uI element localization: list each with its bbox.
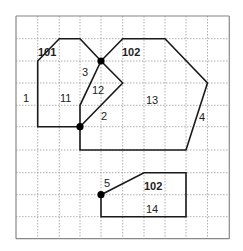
label-14: 14: [146, 203, 158, 215]
label-13: 13: [146, 94, 158, 106]
label-5: 5: [104, 177, 110, 189]
label-12: 12: [92, 84, 104, 96]
labels: 1011021021113122134514: [23, 46, 205, 215]
label-2: 2: [101, 110, 107, 122]
label-102-bottom: 102: [144, 180, 162, 192]
label-102-top: 102: [122, 46, 140, 58]
label-11: 11: [60, 92, 71, 104]
label-1: 1: [23, 92, 29, 104]
node-bottom: [97, 191, 104, 198]
diagram-canvas: 1011021021113122134514: [0, 0, 243, 251]
node-middle: [76, 123, 83, 130]
label-4: 4: [199, 111, 205, 123]
nodes: [76, 57, 104, 198]
node-top: [97, 57, 104, 64]
label-101: 101: [38, 46, 56, 58]
label-3: 3: [82, 66, 88, 78]
